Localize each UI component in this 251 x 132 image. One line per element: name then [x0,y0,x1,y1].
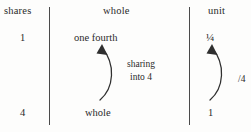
column-divider-left [49,7,50,125]
fraction-sharing-diagram: shares whole unit 1 4 one fourth whole s… [0,0,251,132]
header-whole: whole [103,5,130,17]
unit-bottom-value: 1 [208,107,213,119]
unit-arrow-label: /4 [238,74,245,85]
column-divider-right [189,7,190,125]
shares-bottom-value: 4 [20,107,25,119]
header-unit: unit [208,5,225,17]
sharing-label-line2: into 4 [127,71,155,84]
header-shares: shares [4,5,31,17]
sharing-arrow-unit-icon [200,42,234,102]
whole-bottom-value: whole [85,107,111,119]
sharing-label-line1: sharing [127,58,155,71]
sharing-arrow-whole-icon [88,42,122,102]
shares-top-value: 1 [20,32,25,44]
sharing-label: sharing into 4 [127,58,155,84]
